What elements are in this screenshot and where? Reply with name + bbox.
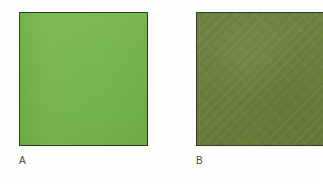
color-swatch-a	[19, 12, 148, 146]
color-swatch-b-label: B	[196, 155, 203, 167]
color-swatch-b-fill	[197, 13, 323, 145]
color-swatch-b	[196, 12, 323, 146]
color-swatch-a-label: A	[19, 155, 26, 167]
color-swatch-a-fill	[20, 13, 147, 145]
